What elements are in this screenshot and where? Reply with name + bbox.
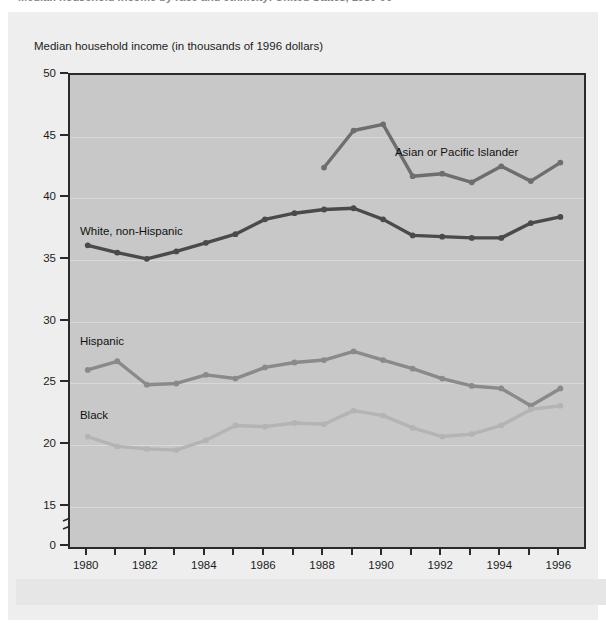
data-point xyxy=(557,214,563,220)
x-axis-tick-label: 1982 xyxy=(120,559,170,571)
y-axis-tick-label: 40 xyxy=(16,190,56,202)
data-point xyxy=(85,434,91,440)
data-point xyxy=(469,431,475,437)
panel-bottom-band xyxy=(16,579,606,605)
data-point xyxy=(351,128,357,134)
y-axis-tick xyxy=(60,72,68,74)
y-axis-tick-label: 25 xyxy=(16,375,56,387)
y-axis-tick-label: 30 xyxy=(16,314,56,326)
y-axis-tick xyxy=(60,257,68,259)
data-point xyxy=(114,444,120,450)
data-point xyxy=(380,357,386,363)
x-axis-tick-label: 1992 xyxy=(415,559,465,571)
x-axis-tick-label: 1996 xyxy=(533,559,583,571)
data-point xyxy=(114,250,120,256)
data-point xyxy=(144,382,150,388)
data-point xyxy=(380,413,386,419)
y-axis-tick-label: 20 xyxy=(16,437,56,449)
data-point xyxy=(439,234,445,240)
data-point xyxy=(410,173,416,179)
data-point xyxy=(498,163,504,169)
y-axis-tick-label: 45 xyxy=(16,129,56,141)
series-label-black: Black xyxy=(80,409,108,421)
data-point xyxy=(321,165,327,171)
data-point xyxy=(114,358,120,364)
data-point xyxy=(498,235,504,241)
series-label-white: White, non-Hispanic xyxy=(80,225,183,237)
y-axis-tick-label: 35 xyxy=(16,252,56,264)
x-axis-tick-label: 1980 xyxy=(61,559,111,571)
data-point xyxy=(292,210,298,216)
data-point xyxy=(144,446,150,452)
y-axis-tick xyxy=(60,380,68,382)
data-point xyxy=(173,381,179,387)
data-point xyxy=(262,216,268,222)
data-point xyxy=(410,425,416,431)
data-point xyxy=(292,360,298,366)
data-point xyxy=(557,160,563,166)
figure-title: Median household income by race and ethn… xyxy=(18,0,392,3)
data-point xyxy=(173,447,179,453)
data-point xyxy=(410,366,416,372)
data-point xyxy=(528,220,534,226)
data-point xyxy=(321,207,327,213)
data-point xyxy=(351,408,357,414)
data-point xyxy=(439,376,445,382)
data-point xyxy=(528,406,534,412)
data-point xyxy=(203,372,209,378)
data-point xyxy=(410,233,416,239)
data-point xyxy=(557,403,563,409)
figure-panel: Median household income (in thousands of… xyxy=(8,12,598,620)
data-point xyxy=(203,437,209,443)
y-axis-tick xyxy=(60,195,68,197)
figure-title-strip: Median household income by race and ethn… xyxy=(0,0,606,12)
data-point xyxy=(557,386,563,392)
y-axis-tick xyxy=(60,442,68,444)
y-axis-title: Median household income (in thousands of… xyxy=(34,40,323,52)
data-point xyxy=(262,365,268,371)
x-axis-tick-label: 1990 xyxy=(356,559,406,571)
data-point xyxy=(469,235,475,241)
series-line xyxy=(88,406,561,450)
x-axis-tick-label: 1994 xyxy=(474,559,524,571)
data-point xyxy=(351,205,357,211)
data-point xyxy=(351,349,357,355)
x-axis-tick-label: 1984 xyxy=(179,559,229,571)
y-axis-tick xyxy=(60,319,68,321)
data-point xyxy=(85,367,91,373)
data-point xyxy=(380,121,386,127)
data-point xyxy=(233,376,239,382)
y-axis-tick xyxy=(60,544,68,546)
data-point xyxy=(203,240,209,246)
data-point xyxy=(262,424,268,430)
y-axis-tick-label: 0 xyxy=(16,539,56,551)
y-axis-tick xyxy=(60,504,68,506)
data-point xyxy=(173,249,179,255)
data-point xyxy=(528,178,534,184)
data-point xyxy=(292,420,298,426)
data-point xyxy=(439,434,445,440)
data-point xyxy=(380,216,386,222)
data-point xyxy=(469,179,475,185)
x-axis-tick-label: 1988 xyxy=(297,559,347,571)
x-axis-tick-label: 1986 xyxy=(238,559,288,571)
data-point xyxy=(233,231,239,237)
data-point xyxy=(233,423,239,429)
data-point xyxy=(439,171,445,177)
data-point xyxy=(321,357,327,363)
y-axis-tick-label: 50 xyxy=(16,67,56,79)
series-label-hispanic: Hispanic xyxy=(80,335,124,347)
figure-page: Median household income by race and ethn… xyxy=(0,0,606,635)
data-point xyxy=(498,423,504,429)
plot-area: Asian or Pacific Islander White, non-His… xyxy=(68,73,586,549)
data-point xyxy=(469,383,475,389)
series-label-asian: Asian or Pacific Islander xyxy=(395,146,518,158)
data-point xyxy=(321,421,327,427)
y-axis-tick xyxy=(60,134,68,136)
data-point xyxy=(85,242,91,248)
data-point xyxy=(498,386,504,392)
data-point xyxy=(144,256,150,262)
y-axis-tick-label: 15 xyxy=(16,499,56,511)
